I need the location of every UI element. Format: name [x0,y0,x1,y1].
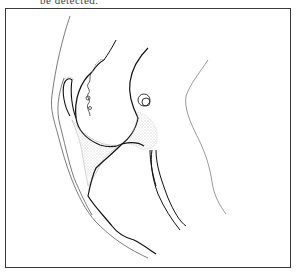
calf-outline-posterior [186,60,226,214]
patella [63,79,76,118]
epiphyseal-line [86,59,104,116]
knee-joint-illustration [0,0,296,272]
fabella [138,94,150,106]
posterior-capsule [128,112,157,150]
fibula [150,150,186,230]
infrapatellar-fat-pad [72,120,122,186]
